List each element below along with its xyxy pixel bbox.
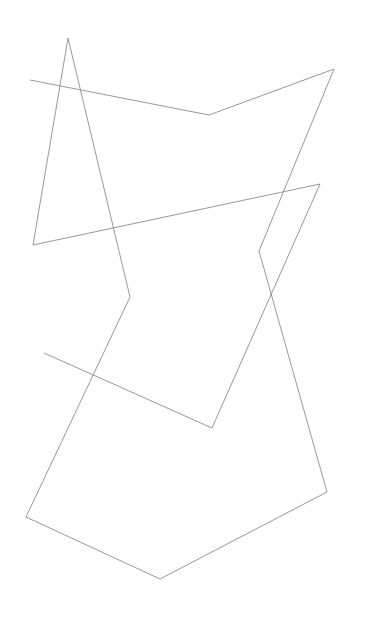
line-drawing-canvas	[0, 0, 369, 627]
background	[0, 0, 369, 627]
